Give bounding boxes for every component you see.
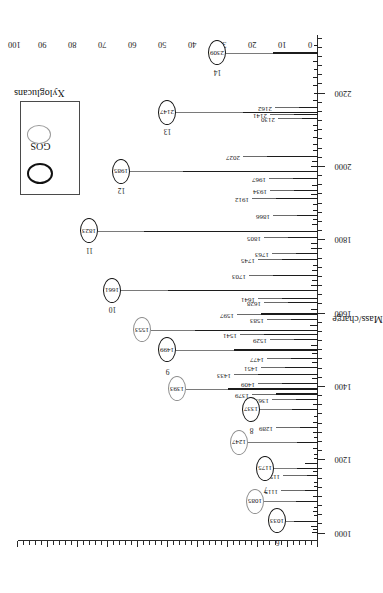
peak-label: 1583 (250, 317, 264, 325)
y-tick-major (17, 541, 18, 547)
x-tick-minor (318, 285, 322, 286)
y-tick-minor (305, 541, 306, 545)
annotation-leader (240, 334, 264, 335)
spectrum-peak (296, 399, 318, 400)
y-tick-minor (179, 541, 180, 545)
y-tick-label: 90 (38, 40, 47, 50)
annotation-leader (286, 521, 294, 522)
annotation-leader (278, 118, 302, 119)
spectrum-peak (310, 326, 318, 327)
annotation-leader (264, 302, 288, 303)
peak-index-number: 11 (86, 246, 93, 255)
circled-peak-label: 1247 (232, 438, 246, 446)
circled-peak-marker: 1823 (80, 218, 98, 243)
spectrum-peak (297, 469, 318, 470)
x-tick-minor (318, 111, 322, 112)
y-tick-major (227, 541, 228, 547)
x-axis-title: Mass/charge (332, 314, 382, 325)
y-tick-minor (299, 541, 300, 545)
y-tick-minor (161, 541, 162, 545)
spectrum-peak (312, 353, 318, 354)
x-tick-label: 1800 (335, 235, 352, 245)
spectrum-peak (293, 178, 319, 179)
y-tick-minor (23, 541, 24, 545)
spectrum-peak (300, 427, 318, 428)
spectrum-peak (267, 156, 318, 157)
annotation-leader (248, 442, 297, 443)
spectrum-peak (313, 448, 318, 449)
annotation-leader (272, 399, 296, 400)
spectrum-peak (294, 190, 318, 191)
x-tick-label: 1400 (335, 382, 352, 392)
spectrum-peak (282, 383, 318, 384)
legend-item: GOS (27, 137, 53, 184)
x-tick-minor (318, 414, 322, 415)
annotation-leader (252, 198, 276, 199)
annotation-leader (274, 469, 297, 470)
y-tick-minor (269, 541, 270, 545)
x-tick-label: 1200 (335, 455, 352, 465)
circled-peak-label: 1661 (105, 286, 119, 294)
circled-peak-marker: 1393 (168, 376, 186, 401)
spectrum-peak (314, 69, 319, 70)
spectrum-peak (313, 144, 318, 145)
x-tick-minor (318, 450, 322, 451)
spectrum-peak (288, 302, 318, 303)
y-tick-major (77, 541, 78, 547)
y-tick-label: 70 (98, 40, 107, 50)
spectrum-peak (294, 339, 318, 340)
spectrum-peak (311, 309, 318, 310)
y-tick-minor (221, 541, 222, 545)
annotation-leader (226, 53, 273, 54)
y-tick-minor (311, 541, 312, 545)
annotation-leader (260, 409, 292, 410)
annotation-leader (121, 290, 168, 291)
annotation-leader (252, 394, 276, 395)
y-tick-minor (83, 541, 84, 545)
annotation-leader (275, 107, 299, 108)
spectrum-peak (311, 243, 318, 244)
annotation-leader (243, 156, 267, 157)
spectrum-peak (312, 224, 318, 225)
spectrum-peak (313, 125, 318, 126)
spectrum-peak (313, 61, 318, 62)
spectrum-peak (313, 204, 318, 205)
spectrum-peak (292, 409, 318, 410)
spectrum-peak (314, 130, 319, 131)
spectrum-peak (312, 362, 318, 363)
y-tick-minor (119, 541, 120, 545)
peak-label: 2027 (226, 154, 240, 162)
peak-label: 1433 (217, 372, 231, 380)
spectrum-peak (313, 150, 318, 151)
peak-label: 1477 (250, 356, 264, 364)
x-tick-minor (318, 221, 322, 222)
spectrum-peak (314, 45, 319, 46)
y-tick-label: 10 (278, 40, 287, 50)
circled-peak-label: 2309 (210, 49, 224, 57)
y-tick-minor (125, 541, 126, 545)
annotation-leader (258, 383, 282, 384)
y-tick-minor (71, 541, 72, 545)
circled-peak-label: 1985 (114, 168, 128, 176)
y-tick-minor (209, 541, 210, 545)
annotation-leader (186, 389, 228, 390)
spectrum-peak (312, 378, 318, 379)
x-tick-minor (318, 249, 322, 250)
y-tick-minor (203, 541, 204, 545)
x-tick-minor (318, 212, 322, 213)
x-tick-major (318, 459, 325, 460)
x-tick-minor (318, 294, 322, 295)
x-tick-minor (318, 505, 322, 506)
peak-label: 1703 (232, 273, 246, 281)
spectrum-peak (313, 265, 318, 266)
spectrum-peak (261, 313, 318, 314)
circled-peak-label: 1175 (258, 465, 272, 473)
x-tick-minor (318, 514, 322, 515)
y-tick-label: 100 (8, 40, 21, 50)
y-tick-major (197, 541, 198, 547)
spectrum-peak (312, 161, 318, 162)
circled-peak-label: 1033 (270, 517, 284, 525)
circled-peak-label: 1553 (135, 326, 149, 334)
y-tick-label: 80 (68, 40, 77, 50)
spectrum-peak (282, 298, 318, 299)
